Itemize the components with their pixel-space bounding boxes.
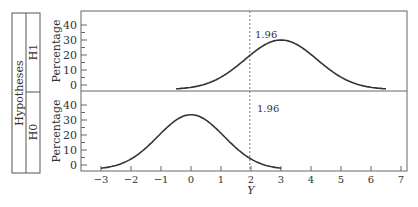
facet-title: Hypotheses: [13, 60, 26, 126]
x-tick-label: −3: [94, 174, 109, 185]
y-tick-label: 40: [63, 99, 77, 112]
x-axis-label: Y: [247, 184, 256, 197]
y-axis-label-h0: Percentage: [50, 100, 63, 163]
y-tick-label: 0: [70, 79, 77, 92]
y-tick-label: 30: [63, 34, 77, 47]
x-axis-ticks: −3−2−101234567: [94, 166, 405, 185]
y-axis-ticks: 010203040010203040: [63, 19, 87, 172]
x-tick-label: −2: [124, 174, 139, 185]
y-tick-label: 20: [63, 49, 77, 62]
y-axis-label-h1: Percentage: [50, 20, 63, 83]
critical-value-annotation-h0: 1.96: [257, 103, 279, 114]
facet-label-h1: H1: [27, 44, 40, 61]
y-tick-label: 20: [63, 129, 77, 142]
y-tick-label: 30: [63, 114, 77, 127]
facet-strip: Hypotheses H1 H0: [12, 13, 40, 173]
x-tick-label: 7: [398, 174, 404, 185]
x-tick-label: 5: [338, 174, 344, 185]
x-tick-label: 3: [278, 174, 284, 185]
x-tick-label: 4: [308, 174, 314, 185]
x-tick-label: 1: [218, 174, 224, 185]
x-tick-label: −1: [154, 174, 169, 185]
x-tick-label: 0: [188, 174, 194, 185]
density-curve-h0: [101, 115, 281, 168]
y-tick-label: 0: [70, 159, 77, 172]
y-tick-label: 40: [63, 19, 77, 32]
y-tick-label: 10: [63, 144, 77, 157]
density-curve-h1: [176, 40, 386, 89]
x-tick-label: 6: [368, 174, 374, 185]
y-tick-label: 10: [63, 64, 77, 77]
critical-value-annotation-h1: 1.96: [255, 29, 277, 40]
facet-label-h0: H0: [27, 124, 40, 141]
chart: Hypotheses H1 H0 Percentage Percentage 0…: [0, 0, 418, 207]
